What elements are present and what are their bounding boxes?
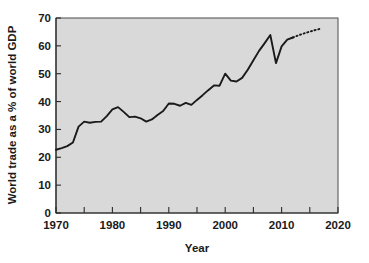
y-tick-label: 50 <box>38 68 51 80</box>
y-axis-title: World trade as a % of world GDP <box>6 25 18 204</box>
y-tick-label: 10 <box>38 179 51 191</box>
x-tick-label: 1990 <box>156 219 182 231</box>
x-tick-label: 2000 <box>212 219 238 231</box>
x-tick-label: 1980 <box>100 219 126 231</box>
x-tick-label: 1970 <box>43 219 69 231</box>
y-tick-label: 30 <box>38 123 51 135</box>
y-tick-label: 60 <box>38 40 51 52</box>
x-tick-label: 2020 <box>325 219 351 231</box>
y-tick-label: 70 <box>38 12 51 24</box>
y-tick-label: 0 <box>45 207 51 219</box>
x-axis-title: Year <box>185 242 210 254</box>
chart-canvas: 010203040506070 197019801990200020102020… <box>0 0 369 263</box>
x-tick-label: 2010 <box>269 219 295 231</box>
y-tick-label: 20 <box>38 151 51 163</box>
world-trade-line-chart: 010203040506070 197019801990200020102020… <box>0 0 369 263</box>
plot-area-background <box>56 18 338 213</box>
y-tick-label: 40 <box>38 96 51 108</box>
